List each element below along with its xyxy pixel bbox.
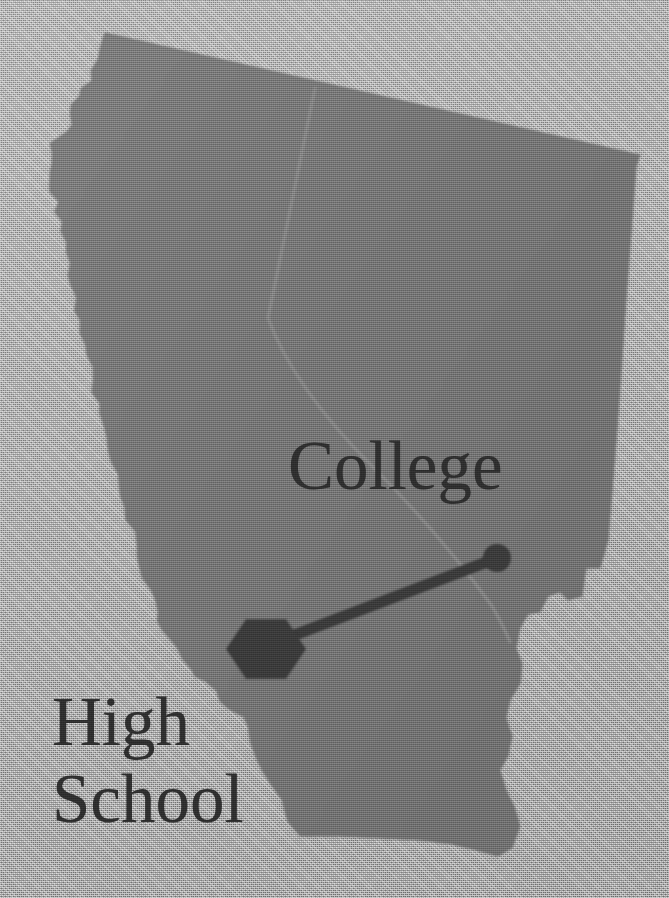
high-school-label-line1: High <box>52 684 190 760</box>
map-figure: College HighSchool <box>0 0 669 898</box>
high-school-label: HighSchool <box>52 688 244 834</box>
high-school-label-line2: School <box>52 765 244 834</box>
college-label: College <box>288 432 503 501</box>
college-circle-marker[interactable] <box>483 544 511 572</box>
